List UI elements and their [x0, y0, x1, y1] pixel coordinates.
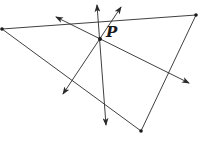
- left-vertex-dot: [0, 27, 4, 31]
- triangle-bisector-diagram: P: [0, 0, 204, 147]
- bisector-line-1: [97, 5, 106, 125]
- point-p-dot: [98, 37, 102, 41]
- bisector-lines: [56, 5, 189, 125]
- top-right-vertex-dot: [194, 13, 198, 17]
- triangle-side-bottom-left: [2, 29, 141, 131]
- bisector-line-3: [56, 17, 189, 83]
- bottom-vertex-dot: [139, 129, 143, 133]
- bisector-line-2: [63, 7, 121, 94]
- point-p-label: P: [105, 23, 118, 41]
